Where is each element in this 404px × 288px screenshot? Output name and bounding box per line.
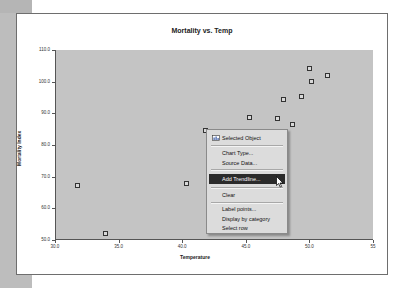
menu-item-select-row[interactable]: Select row bbox=[209, 223, 285, 233]
y-tick bbox=[52, 82, 55, 83]
x-tick bbox=[119, 240, 120, 243]
y-tick-label: 110.0 bbox=[30, 47, 50, 52]
y-tick-label: 80.0 bbox=[30, 142, 50, 147]
y-tick-label: 50.0 bbox=[30, 237, 50, 242]
y-tick bbox=[52, 208, 55, 209]
data-point-marker[interactable] bbox=[307, 66, 312, 71]
y-tick-label: 60.0 bbox=[30, 205, 50, 210]
menu-item-clear[interactable]: Clear bbox=[209, 190, 285, 200]
menu-item-chart-type[interactable]: Chart Type... bbox=[209, 148, 285, 158]
menu-separator bbox=[211, 145, 283, 147]
y-tick-label: 100.0 bbox=[30, 79, 50, 84]
menu-item-label: Add Trendline... bbox=[222, 176, 261, 182]
y-tick bbox=[52, 113, 55, 114]
data-point-marker[interactable] bbox=[247, 115, 252, 120]
data-point-marker[interactable] bbox=[281, 97, 286, 102]
x-tick-label: 45.0 bbox=[236, 244, 256, 249]
mouse-cursor-icon bbox=[276, 176, 284, 188]
data-point-marker[interactable] bbox=[290, 122, 295, 127]
y-tick bbox=[52, 145, 55, 146]
data-point-marker[interactable] bbox=[325, 73, 330, 78]
x-tick bbox=[373, 240, 374, 243]
chart-object-icon bbox=[212, 135, 220, 141]
data-point-marker[interactable] bbox=[299, 94, 304, 99]
menu-item-label: Select row bbox=[222, 225, 248, 231]
x-tick bbox=[55, 240, 56, 243]
data-point-marker[interactable] bbox=[103, 231, 108, 236]
menu-item-selected-object[interactable]: Selected Object bbox=[209, 133, 285, 143]
y-tick-label: 70.0 bbox=[30, 174, 50, 179]
data-point-marker[interactable] bbox=[309, 79, 314, 84]
x-tick bbox=[182, 240, 183, 243]
x-tick-label: 55 bbox=[363, 244, 383, 249]
menu-item-add-trendline[interactable]: Add Trendline... bbox=[209, 174, 285, 184]
y-tick bbox=[52, 177, 55, 178]
y-tick-label: 90.0 bbox=[30, 110, 50, 115]
x-tick bbox=[309, 240, 310, 243]
data-point-marker[interactable] bbox=[184, 181, 189, 186]
menu-item-label: Label points... bbox=[222, 206, 256, 212]
menu-item-label: Display by category bbox=[222, 216, 270, 222]
y-tick bbox=[52, 50, 55, 51]
menu-item-label: Source Data... bbox=[222, 160, 257, 166]
x-tick-label: 50.0 bbox=[299, 244, 319, 249]
menu-item-label: Selected Object bbox=[222, 135, 261, 141]
x-axis-title: Temperature bbox=[160, 254, 230, 260]
x-tick bbox=[246, 240, 247, 243]
chart-title: Mortality vs. Temp bbox=[16, 27, 388, 34]
menu-item-label-points[interactable]: Label points... bbox=[209, 204, 285, 214]
menu-item-label: Clear bbox=[222, 192, 235, 198]
data-point-marker[interactable] bbox=[275, 116, 280, 121]
y-axis-title: Mortality Index bbox=[16, 131, 22, 166]
menu-separator bbox=[211, 169, 283, 171]
menu-item-label: Chart Type... bbox=[222, 150, 253, 156]
left-gray-strip-top bbox=[0, 0, 32, 13]
x-tick-label: 35.0 bbox=[109, 244, 129, 249]
data-point-marker[interactable] bbox=[75, 183, 80, 188]
menu-separator bbox=[211, 187, 283, 189]
menu-item-source-data[interactable]: Source Data... bbox=[209, 158, 285, 168]
x-tick-label: 40.0 bbox=[172, 244, 192, 249]
x-tick-label: 30.0 bbox=[45, 244, 65, 249]
